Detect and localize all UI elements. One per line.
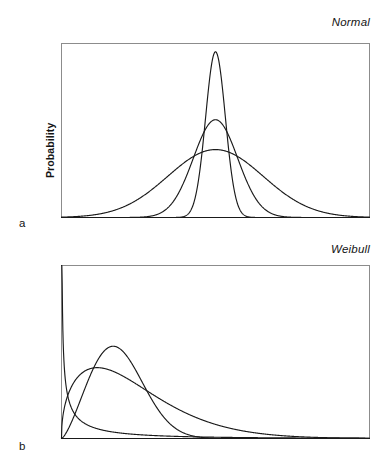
distribution-curve [62,266,370,439]
probability-distributions-figure: Normal Probability a Weibull Probability… [0,0,386,472]
distribution-curve [62,150,370,218]
panel-b-plot [0,232,386,472]
distribution-curve [62,368,370,439]
distribution-curve [62,120,370,218]
panel-normal: Normal Probability a [0,0,386,240]
panel-a-plot [0,0,386,240]
distribution-curve [62,52,370,218]
panel-weibull: Weibull Probability b [0,232,386,472]
